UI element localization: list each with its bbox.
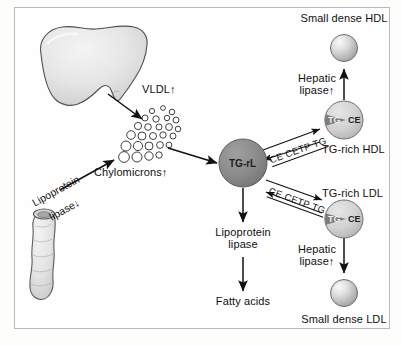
hepatic-lipase-hdl-line1: Hepatic <box>288 72 346 85</box>
hepatic-lipase-ldl-line1: Hepatic <box>288 243 346 256</box>
hepatic-lipase-hdl-line2: lipase↑ <box>288 84 346 97</box>
tg-rl-label: TG-rL <box>229 158 256 169</box>
arrow-particles-to-tgrl <box>168 148 217 163</box>
intestine-organ-icon <box>30 209 55 299</box>
vldl-label: VLDL↑ <box>142 83 176 96</box>
lipoprotein-lipase-label-line2: lipase <box>205 238 281 251</box>
hdl-ce-label: CE <box>348 115 361 125</box>
lipoprotein-lipase-label-line1: Lipoprotein <box>205 226 281 239</box>
ldl-ce-label: CE <box>348 214 361 224</box>
hepatic-lipase-ldl-line2: lipase↑ <box>288 255 346 268</box>
liver-organ-icon <box>40 26 147 105</box>
small-dense-hdl-particle <box>331 35 358 62</box>
hdl-tg-label: TG <box>328 115 341 125</box>
small-dense-ldl-particle <box>331 280 358 307</box>
small-dense-hdl-label: Small dense HDL <box>292 12 396 25</box>
fatty-acids-label: Fatty acids <box>205 295 281 308</box>
arrow-liver-to-vldl <box>108 94 142 119</box>
figure-canvas: VLDL↑ Chylomicrons↑ Lipoprotein lipase↓ … <box>0 0 401 346</box>
tg-rich-ldl-label: TG-rich LDL <box>322 187 383 200</box>
vldl-chylomicron-particle-cluster <box>119 106 181 163</box>
ldl-tg-label: TG <box>328 214 341 224</box>
small-dense-ldl-label: Small dense LDL <box>292 313 396 326</box>
diagram-graphics-layer <box>0 0 401 346</box>
chylomicrons-label: Chylomicrons↑ <box>94 166 167 179</box>
tg-rich-hdl-label: TG-rich HDL <box>322 143 385 156</box>
